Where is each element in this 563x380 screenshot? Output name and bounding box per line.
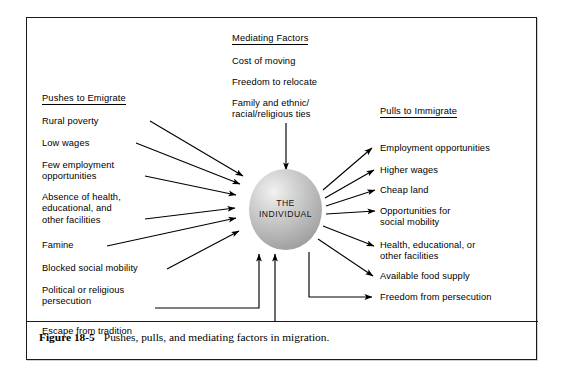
- caption-bar: Figure 18-5Pushes, pulls, and mediating …: [27, 321, 538, 361]
- push-item-rural-poverty: Rural poverty: [42, 116, 99, 127]
- push-item-low-wages: Low wages: [42, 138, 89, 149]
- figure-caption-body: Pushes, pulls, and mediating factors in …: [104, 331, 330, 343]
- individual-sphere: THE INDIVIDUAL: [249, 169, 322, 250]
- push-item-political-religious-persecution: Political or religious persecution: [42, 285, 124, 308]
- sphere-label: THE INDIVIDUAL: [249, 198, 322, 219]
- pull-item-employment-opportunities: Employment opportunities: [380, 143, 490, 154]
- pull-item-freedom-from-persecution: Freedom from persecution: [380, 292, 491, 303]
- figure-caption-label: Figure 18-5: [39, 331, 95, 343]
- arrow-push-few-employment: [145, 176, 236, 195]
- figure-caption: Figure 18-5Pushes, pulls, and mediating …: [39, 331, 329, 343]
- pushes-heading: Pushes to Emigrate: [42, 93, 126, 105]
- push-item-absence-of-facilities: Absence of health, educational, and othe…: [42, 192, 121, 226]
- arrow-pull-opportunities-mobility: [326, 211, 375, 214]
- pull-item-cheap-land: Cheap land: [380, 185, 429, 196]
- pull-item-health-educational-facilities: Health, educational, or other facilities: [380, 240, 475, 263]
- arrow-pull-freedom-persecution: [309, 252, 372, 297]
- sphere-label-line2: INDIVIDUAL: [249, 209, 322, 220]
- arrow-pull-higher-wages: [325, 170, 374, 198]
- figure-frame: THE INDIVIDUAL Mediating Factors Cost of…: [26, 17, 537, 360]
- arrow-push-absence-facilities: [145, 208, 235, 219]
- pull-item-available-food-supply: Available food supply: [380, 271, 470, 282]
- mediating-item-family-ethnic-ties: Family and ethnic/ racial/religious ties: [232, 98, 311, 121]
- mediating-item-cost-of-moving: Cost of moving: [232, 56, 295, 67]
- arrow-pull-employment: [323, 148, 372, 190]
- arrow-push-blocked-mobility: [167, 231, 239, 269]
- push-item-famine: Famine: [42, 240, 74, 251]
- arrow-pull-cheap-land: [326, 190, 375, 206]
- pull-item-opportunities-social-mobility: Opportunities for social mobility: [380, 206, 450, 229]
- pull-item-higher-wages: Higher wages: [380, 165, 438, 176]
- sphere-label-line1: THE: [249, 198, 322, 209]
- arrow-push-rural-poverty: [150, 121, 243, 176]
- arrow-push-famine: [107, 218, 236, 246]
- push-item-blocked-social-mobility: Blocked social mobility: [42, 263, 138, 274]
- arrow-pull-health-facilities: [323, 226, 374, 246]
- push-item-few-employment-opportunities: Few employment opportunities: [42, 160, 114, 183]
- mediating-item-freedom-to-relocate: Freedom to relocate: [232, 77, 317, 88]
- pulls-heading: Pulls to Immigrate: [380, 106, 457, 118]
- arrow-pull-food-supply: [318, 239, 373, 276]
- diagram-canvas: THE INDIVIDUAL Mediating Factors Cost of…: [27, 18, 538, 321]
- mediating-factors-heading: Mediating Factors: [232, 33, 308, 45]
- arrow-push-persecution: [155, 254, 259, 308]
